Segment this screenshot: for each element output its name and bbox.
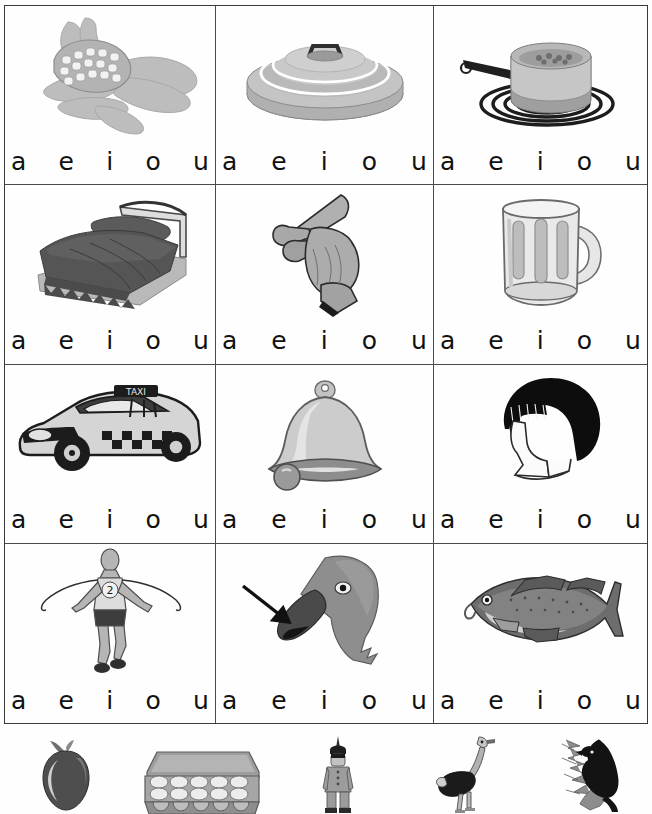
worksheet-cell-lid[interactable]: a e i o u: [216, 6, 434, 185]
picture-area: [434, 185, 647, 323]
bottom-item-eggs[interactable]: [131, 734, 273, 814]
vowel-option-u[interactable]: u: [193, 507, 209, 532]
vowel-option-e[interactable]: e: [271, 688, 286, 713]
vowel-option-e[interactable]: e: [488, 507, 503, 532]
vowel-option-a[interactable]: a: [440, 507, 455, 532]
vowel-option-a[interactable]: a: [11, 149, 26, 174]
vowel-option-e[interactable]: e: [271, 149, 286, 174]
vowel-option-u[interactable]: u: [625, 507, 641, 532]
worksheet-cell-pot[interactable]: a e i o u: [434, 6, 647, 185]
worksheet-cell-cod[interactable]: a e i o u: [434, 544, 647, 723]
bell-icon: [225, 369, 425, 499]
vowel-choice-row[interactable]: a e i o u: [216, 144, 433, 184]
worksheet-cell-finger[interactable]: a e i o u: [216, 185, 434, 364]
vowel-option-i[interactable]: i: [537, 688, 544, 713]
vowel-option-i[interactable]: i: [321, 149, 328, 174]
vowel-option-o[interactable]: o: [577, 149, 592, 174]
vowel-choice-row[interactable]: a e i o u: [5, 503, 215, 543]
vowel-option-u[interactable]: u: [625, 688, 641, 713]
vowel-option-u[interactable]: u: [625, 149, 641, 174]
vowel-option-o[interactable]: o: [146, 149, 161, 174]
bottom-item-umbrella-bird[interactable]: [533, 734, 652, 814]
vowel-option-a[interactable]: a: [11, 507, 26, 532]
vowel-option-u[interactable]: u: [193, 688, 209, 713]
vowel-choice-row[interactable]: a e i o u: [5, 144, 215, 184]
vowel-option-a[interactable]: a: [440, 149, 455, 174]
vowel-option-a[interactable]: a: [222, 149, 237, 174]
worksheet-cell-bill[interactable]: a e i o u: [216, 544, 434, 723]
vowel-option-u[interactable]: u: [411, 328, 427, 353]
vowel-choice-row[interactable]: a e i o u: [216, 503, 433, 543]
vowel-option-e[interactable]: e: [488, 688, 503, 713]
vowel-option-e[interactable]: e: [59, 328, 74, 353]
vowel-option-a[interactable]: a: [222, 688, 237, 713]
vowel-choice-row[interactable]: a e i o u: [5, 683, 215, 723]
vowel-option-o[interactable]: o: [362, 149, 377, 174]
vowel-option-e[interactable]: e: [59, 688, 74, 713]
vowel-option-u[interactable]: u: [193, 149, 209, 174]
vowel-option-i[interactable]: i: [321, 328, 328, 353]
vowel-option-i[interactable]: i: [321, 688, 328, 713]
vowel-option-i[interactable]: i: [106, 507, 113, 532]
vowel-option-u[interactable]: u: [411, 149, 427, 174]
vowel-choice-row[interactable]: a e i o u: [434, 144, 647, 184]
vowel-option-u[interactable]: u: [411, 688, 427, 713]
picture-area: [5, 185, 215, 323]
vowel-option-o[interactable]: o: [146, 688, 161, 713]
vowel-choice-row[interactable]: a e i o u: [434, 503, 647, 543]
vowel-option-a[interactable]: a: [440, 328, 455, 353]
bottom-picture-strip: [0, 734, 652, 814]
beer-mug-icon: [441, 189, 641, 319]
vowel-option-a[interactable]: a: [11, 688, 26, 713]
vowel-option-e[interactable]: e: [271, 328, 286, 353]
vowel-choice-row[interactable]: a e i o u: [5, 324, 215, 364]
vowel-option-o[interactable]: o: [146, 328, 161, 353]
vowel-option-i[interactable]: i: [106, 688, 113, 713]
worksheet-cell-bed[interactable]: a e i o u: [5, 185, 216, 364]
vowel-option-i[interactable]: i: [537, 507, 544, 532]
vowel-option-o[interactable]: o: [362, 688, 377, 713]
vowel-option-o[interactable]: o: [146, 507, 161, 532]
worksheet-cell-corn[interactable]: a e i o u: [5, 6, 216, 185]
vowel-option-e[interactable]: e: [488, 149, 503, 174]
picture-area: 2: [5, 544, 215, 683]
vowel-option-a[interactable]: a: [222, 328, 237, 353]
vowel-option-u[interactable]: u: [411, 507, 427, 532]
vowel-option-e[interactable]: e: [59, 149, 74, 174]
vowel-choice-row[interactable]: a e i o u: [434, 324, 647, 364]
vowel-option-o[interactable]: o: [577, 688, 592, 713]
vowel-option-o[interactable]: o: [362, 507, 377, 532]
fish-cod-icon: [441, 548, 641, 678]
vowel-choice-row[interactable]: a e i o u: [216, 683, 433, 723]
vowel-option-a[interactable]: a: [11, 328, 26, 353]
ostrich-icon: [433, 734, 503, 814]
vowel-option-e[interactable]: e: [488, 328, 503, 353]
vowel-option-e[interactable]: e: [59, 507, 74, 532]
vowel-option-o[interactable]: o: [362, 328, 377, 353]
bottom-item-ostrich[interactable]: [403, 734, 533, 814]
bottom-item-apple[interactable]: [0, 734, 131, 814]
vowel-option-o[interactable]: o: [577, 328, 592, 353]
vowel-option-i[interactable]: i: [321, 507, 328, 532]
vowel-option-a[interactable]: a: [440, 688, 455, 713]
vowel-option-i[interactable]: i: [106, 328, 113, 353]
vowel-option-o[interactable]: o: [577, 507, 592, 532]
vowel-choice-row[interactable]: a e i o u: [434, 683, 647, 723]
worksheet-cell-win[interactable]: 2 a e i o u: [5, 544, 216, 723]
vowel-choice-row[interactable]: a e i o u: [216, 324, 433, 364]
head-with-hair-icon: [441, 369, 641, 499]
worksheet-cell-bell[interactable]: a e i o u: [216, 365, 434, 544]
picture-area: [216, 544, 433, 683]
vowel-option-u[interactable]: u: [625, 328, 641, 353]
vowel-option-e[interactable]: e: [271, 507, 286, 532]
vowel-option-i[interactable]: i: [537, 149, 544, 174]
vowel-option-a[interactable]: a: [222, 507, 237, 532]
worksheet-cell-cab[interactable]: TAXI: [5, 365, 216, 544]
worksheet-cell-hair[interactable]: a e i o u: [434, 365, 647, 544]
bottom-item-indian[interactable]: [273, 734, 403, 814]
vowel-option-i[interactable]: i: [106, 149, 113, 174]
vowel-option-i[interactable]: i: [537, 328, 544, 353]
vowel-option-u[interactable]: u: [193, 328, 209, 353]
worksheet-cell-mug[interactable]: a e i o u: [434, 185, 647, 364]
picture-area: [216, 6, 433, 144]
